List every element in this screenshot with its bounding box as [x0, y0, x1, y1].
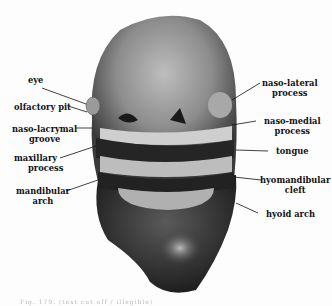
label-olfactory-pit-text: olfactory pit	[14, 102, 71, 112]
figure-caption: Fig. 179. (text cut off / illegible)	[20, 298, 320, 306]
label-mandibular-arch: mandibular arch	[16, 186, 70, 206]
label-naso-lateral-line1: naso-lateral	[262, 78, 318, 88]
label-tongue: tongue	[276, 146, 309, 156]
eye-shape	[86, 97, 100, 115]
label-olfactory-pit: olfactory pit	[14, 102, 71, 112]
label-hyomandibular-line2: cleft	[260, 185, 330, 195]
label-naso-medial-line2: process	[264, 126, 321, 136]
label-hyoid-arch-text: hyoid arch	[266, 209, 315, 219]
label-mandibular-line1: mandibular	[16, 186, 70, 196]
label-naso-lateral-line2: process	[262, 88, 318, 98]
label-tongue-text: tongue	[276, 146, 309, 156]
label-naso-lacrymal-line1: naso-lacrymal	[12, 124, 77, 134]
label-hyomandibular-cleft: hyomandibular cleft	[260, 175, 330, 195]
label-maxillary-process: maxillary process	[14, 153, 63, 173]
label-naso-lacrymal-groove: naso-lacrymal groove	[12, 124, 77, 144]
label-naso-lacrymal-line2: groove	[12, 134, 77, 144]
label-naso-lateral-process: naso-lateral process	[262, 78, 318, 98]
label-naso-medial-process: naso-medial process	[264, 116, 321, 136]
label-mandibular-line2: arch	[16, 196, 70, 206]
diagram-stage: eye olfactory pit naso-lacrymal groove m…	[0, 0, 332, 306]
label-maxillary-line1: maxillary	[14, 153, 63, 163]
label-naso-medial-line1: naso-medial	[264, 116, 321, 126]
label-eye: eye	[28, 75, 43, 85]
label-eye-text: eye	[28, 75, 43, 85]
label-hyomandibular-line1: hyomandibular	[260, 175, 330, 185]
label-maxillary-line2: process	[14, 163, 63, 173]
label-hyoid-arch: hyoid arch	[266, 209, 315, 219]
